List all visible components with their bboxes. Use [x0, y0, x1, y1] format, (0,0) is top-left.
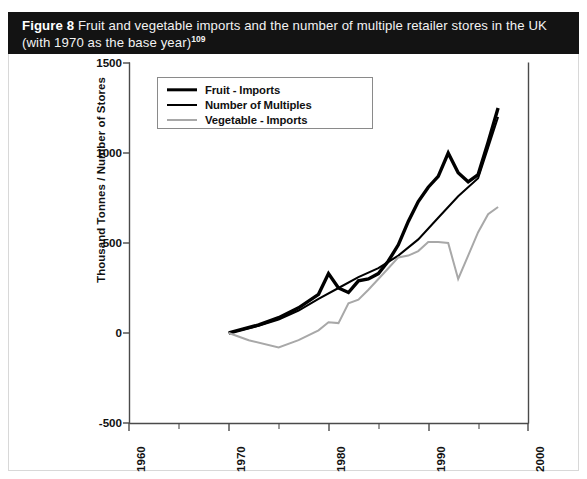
figure-title-line-1: Figure 8 Fruit and vegetable imports and… [22, 17, 569, 34]
chart-legend: Fruit - Imports Number of Multiples Vege… [157, 77, 373, 129]
legend-label-fruit-imports: Fruit - Imports [205, 84, 280, 96]
x-axis-ticks [129, 423, 528, 431]
legend-entry-fruit-imports: Fruit - Imports [167, 82, 372, 97]
legend-label-number-of-multiples: Number of Multiples [205, 99, 312, 111]
figure-footnote-marker: 109 [191, 34, 205, 44]
line-swatch-vegetable-icon [167, 115, 197, 125]
figure-subtitle-text: (with 1970 as the base year) [22, 36, 191, 51]
series-line-fruit-imports [229, 108, 498, 333]
figure-title-banner: Figure 8 Fruit and vegetable imports and… [8, 12, 579, 54]
line-swatch-multiples-icon [167, 100, 197, 110]
legend-entry-number-of-multiples: Number of Multiples [167, 97, 372, 112]
line-swatch-fruit-icon [167, 85, 197, 95]
figure-root: Figure 8 Fruit and vegetable imports and… [0, 0, 587, 479]
data-series-layer [229, 108, 498, 347]
legend-label-vegetable-imports: Vegetable - Imports [205, 114, 307, 126]
figure-title-line-2: (with 1970 as the base year)109 [22, 34, 569, 52]
legend-entry-vegetable-imports: Vegetable - Imports [167, 112, 372, 127]
figure-title-text: Fruit and vegetable imports and the numb… [78, 18, 547, 33]
figure-number-label: Figure 8 [22, 18, 74, 33]
series-line-vegetable-imports [229, 207, 498, 347]
chart-area: Thousand Tonnes / Number of Stores 1500 … [8, 54, 579, 471]
series-line-number-of-multiples [229, 117, 498, 333]
